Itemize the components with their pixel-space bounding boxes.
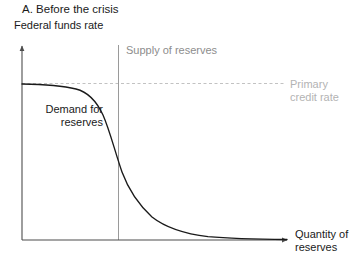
chart-figure: A. Before the crisis Federal funds rate … — [0, 0, 359, 264]
primary-credit-rate-label: Primarycredit rate — [290, 78, 339, 104]
x-axis-label-line1: Quantity of — [295, 228, 348, 240]
demand-for-reserves-label: Demand forreserves — [13, 103, 103, 129]
x-axis-label-line2: reserves — [295, 241, 337, 253]
panel-title: A. Before the crisis — [22, 3, 119, 15]
chart-canvas — [0, 0, 359, 264]
x-axis-label: Quantity ofreserves — [295, 228, 348, 254]
primary-credit-rate-label-line1: Primary — [290, 78, 328, 90]
supply-of-reserves-label: Supply of reserves — [126, 44, 217, 56]
demand-for-reserves-label-line1: Demand for — [46, 103, 103, 115]
y-axis-label: Federal funds rate — [14, 19, 103, 31]
demand-for-reserves-label-line2: reserves — [61, 116, 103, 128]
primary-credit-rate-label-line2: credit rate — [290, 91, 339, 103]
